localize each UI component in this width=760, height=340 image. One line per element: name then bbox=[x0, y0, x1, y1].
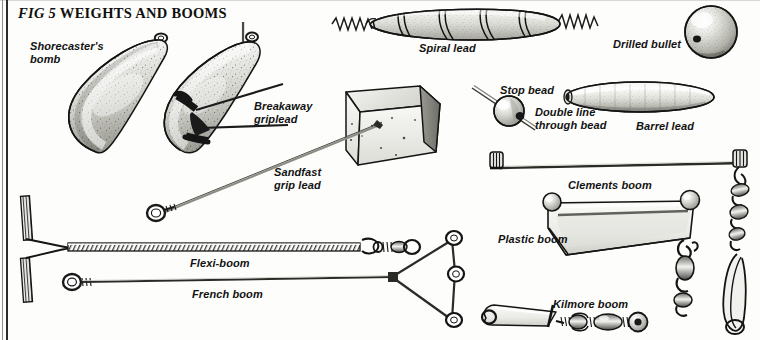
label-plastic-boom: Plastic boom bbox=[498, 233, 568, 246]
breakaway-griplead-drawing bbox=[150, 22, 288, 165]
label-stop-bead: Stop bead bbox=[500, 84, 554, 97]
label-line-2: bomb bbox=[30, 53, 60, 65]
label-line-1: Sandfast bbox=[274, 166, 321, 178]
label-line-2: through bead bbox=[535, 119, 606, 131]
drilled-bullet-drawing bbox=[683, 4, 741, 62]
label-line-2: grip lead bbox=[274, 179, 321, 191]
illustration-canvas bbox=[0, 0, 760, 340]
label-clements-boom: Clements boom bbox=[568, 179, 652, 192]
figure-number: FIG 5 bbox=[18, 5, 56, 21]
label-double-line-through-bead: Double linethrough bead bbox=[535, 106, 606, 131]
flexi-boom-comb-upper bbox=[20, 196, 60, 246]
figure-weights-and-booms: FIG 5 WEIGHTS AND BOOMS Shorecaster'sbom… bbox=[0, 0, 760, 340]
kilmore-chain bbox=[556, 313, 648, 332]
label-line-1: Breakaway bbox=[254, 100, 312, 112]
flexi-boom-comb-lower bbox=[20, 250, 60, 302]
label-line-1: Shorecaster's bbox=[30, 40, 104, 52]
label-line-1: Double line bbox=[535, 106, 595, 118]
label-breakaway-griplead: Breakawaygriplead bbox=[254, 100, 312, 125]
label-drilled-bullet: Drilled bullet bbox=[613, 38, 681, 51]
label-kilmore-boom: Kilmore boom bbox=[553, 298, 628, 311]
label-line-2: griplead bbox=[254, 113, 298, 125]
sandfast-wire-eye bbox=[147, 204, 176, 221]
spiral-lead-coil-right bbox=[558, 15, 598, 28]
label-french-boom: French boom bbox=[192, 288, 263, 301]
flexi-boom-swivel bbox=[362, 239, 420, 254]
figure-title-text: WEIGHTS AND BOOMS bbox=[60, 5, 227, 21]
label-spiral-lead: Spiral lead bbox=[419, 42, 476, 55]
label-shorecasters-bomb: Shorecaster'sbomb bbox=[30, 40, 104, 65]
label-flexi-boom: Flexi-boom bbox=[190, 257, 250, 270]
label-barrel-lead: Barrel lead bbox=[636, 120, 694, 133]
right-swivel-chain bbox=[723, 167, 750, 334]
clements-boom-sleeve-right bbox=[733, 150, 747, 167]
label-sandfast-grip-lead: Sandfastgrip lead bbox=[274, 166, 321, 191]
spiral-lead-drawing bbox=[332, 2, 598, 47]
figure-title: FIG 5 WEIGHTS AND BOOMS bbox=[18, 5, 227, 22]
clements-boom-sleeve-left bbox=[490, 152, 503, 168]
plastic-boom-swivel bbox=[674, 240, 698, 316]
plastic-boom-drawing bbox=[543, 191, 700, 316]
